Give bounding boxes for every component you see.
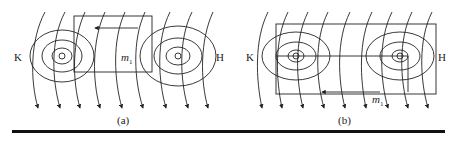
- horizontal-rule: [12, 130, 445, 133]
- loop-label-m: m: [372, 93, 380, 105]
- diagram-canvas: [0, 0, 458, 141]
- panel-a-loop-label: m1: [121, 52, 132, 66]
- panel-b-loop-label: m1: [372, 94, 383, 108]
- loop-label-m: m: [121, 51, 129, 63]
- panel-a-right-vortex: [140, 26, 216, 86]
- panel-a-caption: (a): [117, 115, 129, 126]
- panel-b-label-k: K: [246, 52, 254, 63]
- panel-b-caption: (b): [338, 115, 351, 126]
- panel-a-left-vortex: [30, 30, 94, 82]
- panel-b-label-h: H: [438, 52, 446, 63]
- loop-label-sub: 1: [380, 100, 384, 108]
- loop-label-sub: 1: [129, 58, 133, 66]
- panel-a-label-h: H: [216, 52, 224, 63]
- panel-a-label-k: K: [14, 52, 22, 63]
